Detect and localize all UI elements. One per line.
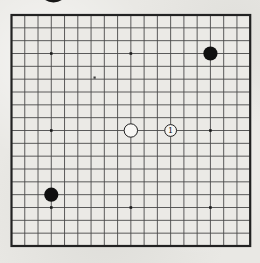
go-board-diagram: 1 (0, 0, 260, 263)
stone-number-label: 1 (168, 126, 173, 135)
star-point (209, 206, 212, 209)
white-stone (124, 124, 137, 137)
black-stone (203, 46, 217, 60)
star-point (50, 52, 53, 55)
scan-speck (94, 77, 96, 79)
star-point (130, 52, 133, 55)
black-stone (44, 188, 58, 202)
scanned-page: 1 (0, 0, 260, 263)
star-point (50, 206, 53, 209)
star-point (209, 129, 212, 132)
cropped-figure-mark (42, 0, 66, 3)
star-point (50, 129, 53, 132)
star-point (130, 206, 133, 209)
